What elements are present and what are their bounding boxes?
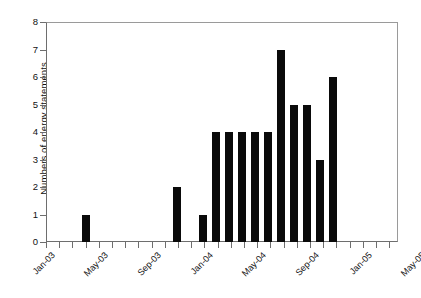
bar [316,160,324,243]
bar [251,132,259,242]
bar [303,105,311,243]
bar [212,132,220,242]
bar [238,132,246,242]
bar [173,187,181,242]
bar [290,105,298,243]
bar-chart: Numbers of energy statements 012345678 J… [0,0,421,298]
bar [82,215,90,243]
bar [277,50,285,243]
bar-series [0,0,421,298]
bar [264,132,272,242]
bar [199,215,207,243]
bar [329,77,337,242]
bar [225,132,233,242]
